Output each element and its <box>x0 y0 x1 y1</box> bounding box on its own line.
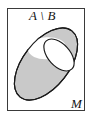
set-difference-label: A \ B <box>29 9 56 22</box>
universe-label: M <box>71 97 82 110</box>
set-difference-figure: A \ B M <box>0 0 92 119</box>
